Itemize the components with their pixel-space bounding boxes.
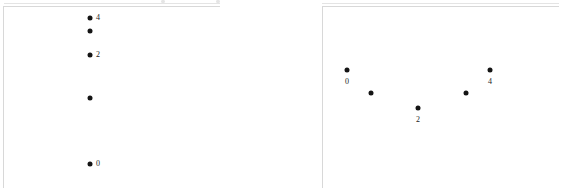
clipped-rule-right [322,3,559,4]
data-point[interactable] [88,53,93,58]
scatter-panel-right: 0 2 4 [322,6,559,188]
data-point[interactable] [88,29,93,34]
data-point-label: 2 [416,116,420,124]
data-point[interactable] [88,96,93,101]
data-point[interactable] [345,68,350,73]
data-point[interactable] [488,68,493,73]
data-point-label: 4 [488,78,492,86]
data-point-label: 0 [96,160,100,168]
scatter-panel-left: 4 2 0 [3,6,220,188]
data-point[interactable] [464,91,469,96]
data-point[interactable] [416,106,421,111]
clipped-rule-left [4,3,220,4]
data-point-label: 0 [345,78,349,86]
clipped-marker-icon [161,0,165,3]
clipped-marker-icon [216,0,220,3]
data-point-label: 2 [96,51,100,59]
figure-root: 4 2 0 0 2 4 [0,0,574,188]
data-point[interactable] [369,91,374,96]
data-point[interactable] [88,162,93,167]
data-point-label: 4 [96,14,100,22]
data-point[interactable] [88,16,93,21]
